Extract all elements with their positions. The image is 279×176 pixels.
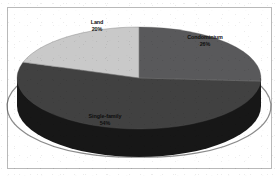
pie-label-single-family-name: Single-family [89,113,122,119]
pie-top-face [17,27,261,129]
pie-label-condominium: Condominium 26% [187,34,223,48]
pie-label-land-name: Land [91,19,104,25]
pie-chart-graphic [0,0,279,176]
pie-chart-panel: Land 20% Condominium 26% Single-family 5… [0,0,279,176]
pie-label-single-family-pct: 54% [89,120,122,127]
pie-label-single-family: Single-family 54% [89,113,122,127]
pie-label-condominium-pct: 26% [187,41,223,48]
pie-label-land-pct: 20% [91,26,104,33]
pie-label-land: Land 20% [91,19,104,33]
chart-plot-area: Land 20% Condominium 26% Single-family 5… [0,0,279,176]
pie-label-condominium-name: Condominium [187,34,223,40]
